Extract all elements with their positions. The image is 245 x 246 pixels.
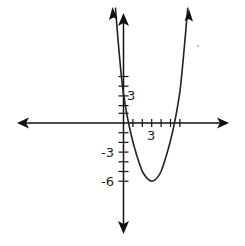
graph-canvas: 3 3 -3 -6 [0, 0, 245, 246]
y-label-neg6: -6 [101, 174, 114, 189]
curve-right-arrow-icon [185, 9, 194, 22]
y-label-3: 3 [127, 88, 135, 103]
stray-dot [197, 45, 199, 47]
x-label-3: 3 [147, 128, 155, 143]
y-label-neg3: -3 [101, 145, 114, 160]
